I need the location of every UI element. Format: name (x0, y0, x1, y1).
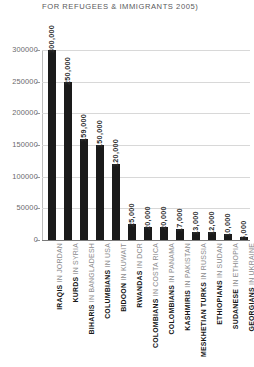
chart-title: FOR REFUGEES & IMMIGRANTS 2005) (42, 1, 254, 13)
category-group-name: COLOMBIANS (152, 298, 159, 348)
y-axis-tick-mark (36, 177, 40, 178)
y-axis: 050000100000150000200000250000300000 (0, 50, 38, 241)
y-axis-tick-label: 300000 (0, 46, 38, 54)
bar-value-label: 20,000 (144, 207, 151, 231)
y-axis-tick-label: 100000 (0, 173, 38, 181)
category-location-name: IN DCR (136, 243, 143, 268)
bar (64, 82, 73, 240)
gridline (42, 50, 250, 51)
x-axis-baseline (42, 240, 250, 241)
category-group-name: RWANDAS (136, 270, 143, 307)
x-axis-tick-label: RWANDAS IN DCR (136, 243, 143, 308)
category-group-name: SUDANESE (232, 289, 239, 329)
gridline (42, 113, 250, 114)
x-axis-tick-label: MESKHETIAN TURKS IN RUSSIA (200, 243, 207, 357)
gridline (42, 145, 250, 146)
x-axis-tick-label: IRAQIS IN JORDAN (56, 243, 63, 310)
category-group-name: COLOMBIANS (168, 285, 175, 335)
x-axis-tick-label: KURDS IN SYRIA (72, 243, 79, 302)
category-group-name: MESKHETIAN TURKS (200, 282, 207, 357)
category-location-name: IN RUSSIA (200, 243, 207, 280)
bar-value-label: 17,000 (176, 208, 183, 232)
x-axis-tick-label: KASHMIRIS IN PAKISTAN (184, 243, 191, 331)
category-location-name: IN BANGLADESH (88, 243, 95, 302)
category-group-name: BIDOON (120, 283, 127, 312)
bar-value-label: 13,000 (192, 211, 199, 235)
bar-value-label: 25,000 (128, 203, 135, 227)
y-axis-tick-mark (36, 145, 40, 146)
x-axis-tick-label: COLOMBIANS IN COSTA RICA (152, 243, 159, 348)
bar-value-label: 159,000 (80, 114, 87, 142)
x-axis-tick-label: BIHARIS IN BANGLADESH (88, 243, 95, 334)
x-axis-tick-label: ETHIOPIANS IN SUDAN (216, 243, 223, 325)
y-axis-tick-label: 200000 (0, 109, 38, 117)
x-axis-category-labels: IRAQIS IN JORDANKURDS IN SYRIABIHARIS IN… (42, 243, 254, 367)
x-axis-tick-label: COLOMBIANS IN PANAMA (168, 243, 175, 334)
bar (112, 164, 121, 240)
x-axis-tick-label: BIDOON IN KUWAIT (120, 243, 127, 312)
category-location-name: IN COSTA RICA (152, 243, 159, 296)
bar-value-label: 120,000 (112, 139, 119, 167)
category-group-name: COLUMBIANS (104, 270, 111, 319)
category-location-name: IN PANAMA (168, 243, 175, 283)
category-location-name: IN PAKISTAN (184, 243, 191, 288)
y-axis-tick-mark (36, 208, 40, 209)
y-axis-tick-label: 0 (0, 236, 38, 244)
plot-area: 300,000250,000159,000150,000120,00025,00… (42, 50, 250, 240)
x-axis-tick-label: GEORGIANS IN UKRAINE (248, 243, 254, 331)
y-axis-tick-mark (36, 113, 40, 114)
category-location-name: IN KUWAIT (120, 243, 127, 281)
y-axis-tick-label: 150000 (0, 141, 38, 149)
y-axis-tick-mark (36, 82, 40, 83)
category-location-name: IN USA (104, 243, 111, 267)
bar-value-label: 12,000 (208, 212, 215, 236)
bar-value-label: 20,000 (160, 207, 167, 231)
category-location-name: IN SYRIA (72, 243, 79, 274)
x-axis-tick-label: SUDANESE IN ETHIOPIA (232, 243, 239, 329)
y-axis-tick-label: 250000 (0, 78, 38, 86)
bar-value-label: 150,000 (96, 120, 103, 148)
bar-value-label: 300,000 (48, 25, 55, 53)
y-axis-tick-mark (36, 50, 40, 51)
category-group-name: KASHMIRIS (184, 290, 191, 331)
category-group-name: IRAQIS (56, 285, 63, 310)
bar (48, 50, 57, 240)
category-location-name: IN ETHIOPIA (232, 243, 239, 287)
bar-value-label: 250,000 (64, 57, 71, 85)
bar (96, 145, 105, 240)
category-location-name: IN SUDAN (216, 243, 223, 278)
x-axis-tick-label: COLUMBIANS IN USA (104, 243, 111, 319)
bar-value-label: 5,000 (240, 220, 247, 240)
category-location-name: IN JORDAN (56, 243, 63, 282)
category-group-name: ETHIOPIANS (216, 280, 223, 325)
bar (80, 139, 89, 240)
category-group-name: GEORGIANS (248, 287, 254, 331)
y-axis-tick-label: 50000 (0, 204, 38, 212)
category-group-name: BIHARIS (88, 304, 95, 334)
gridline (42, 82, 250, 83)
bar-chart-figure: FOR REFUGEES & IMMIGRANTS 2005) 05000010… (0, 0, 254, 367)
bar-value-label: 10,000 (224, 213, 231, 237)
y-axis-tick-mark (36, 240, 40, 241)
gridline (42, 177, 250, 178)
category-location-name: IN UKRAINE (248, 243, 254, 285)
category-group-name: KURDS (72, 277, 79, 303)
